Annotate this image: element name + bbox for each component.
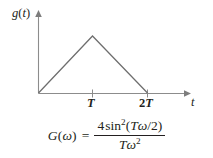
- denominator-exponent: 2: [136, 136, 141, 146]
- formula-block: G(ω) = 4 sin2(Tω/2) Tω2: [0, 113, 213, 158]
- formula-lhs-func: G: [48, 128, 58, 143]
- y-axis-label-close-paren: ): [26, 6, 30, 20]
- equation-row: G(ω) = 4 sin2(Tω/2) Tω2: [48, 118, 166, 153]
- denominator-omega: ω: [127, 137, 137, 152]
- x-axis-label: t: [191, 96, 194, 109]
- denominator-T: T: [119, 137, 127, 152]
- formula-denominator: Tω2: [116, 136, 144, 153]
- formula-fraction: 4 sin2(Tω/2) Tω2: [94, 118, 165, 153]
- x-axis-arrow-icon: [184, 90, 191, 97]
- numerator-arg-omega: ω: [138, 118, 148, 133]
- numerator-close-paren: ): [158, 118, 163, 133]
- formula-lhs-close-paren: ): [72, 128, 77, 143]
- tick-label-2T: 2T: [139, 97, 153, 110]
- formula-numerator: 4 sin2(Tω/2): [94, 118, 165, 135]
- formula-equals-sign: =: [82, 128, 90, 144]
- numerator-arg-T: T: [130, 118, 138, 133]
- formula-lhs: G(ω): [48, 128, 77, 144]
- y-axis-label: g(t): [12, 7, 30, 20]
- tick-label-T: T: [87, 97, 95, 110]
- y-axis-arrow-icon: [35, 10, 42, 17]
- tick-label-2T-var: T: [145, 96, 153, 110]
- triangular-pulse-curve: [39, 36, 148, 93]
- numerator-function: sin: [105, 118, 121, 133]
- formula-lhs-var: ω: [62, 128, 72, 143]
- numerator-arg-two: 2: [151, 118, 158, 133]
